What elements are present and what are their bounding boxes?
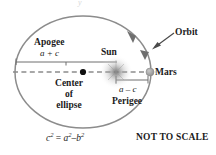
orbit-label: Orbit — [175, 28, 198, 38]
orbit-pointer-arrow-icon — [152, 33, 174, 50]
not-to-scale-caption: NOT TO SCALE — [136, 133, 209, 143]
formula-b-exp: 2 — [81, 131, 84, 138]
center-label-line2: of — [44, 90, 94, 100]
center-point-icon — [80, 69, 86, 75]
center-label-line3: ellipse — [44, 101, 94, 111]
ellipse-formula: c2 = a2–b2 — [46, 132, 84, 144]
orbit-diagram: y — [0, 0, 216, 155]
apogee-label: Apogee — [34, 38, 65, 48]
formula-equals: = — [53, 133, 63, 143]
mars-planet-icon — [146, 68, 154, 76]
sun-label: Sun — [101, 48, 117, 58]
mars-label: Mars — [155, 68, 177, 78]
apogee-distance-label: a + c — [40, 49, 59, 58]
perigee-label: Perigee — [112, 97, 142, 107]
center-label-line1: Center — [44, 79, 94, 89]
orbit-direction-arrow-icon — [127, 31, 149, 60]
perigee-distance-label: a – c — [119, 85, 137, 94]
